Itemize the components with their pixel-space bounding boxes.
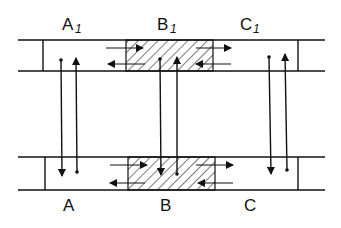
label-b: B <box>160 196 171 215</box>
svg-text:1: 1 <box>253 22 260 36</box>
label-c: C <box>244 196 256 215</box>
bottom-hatched-region-b <box>128 157 215 190</box>
bottom-band <box>18 157 325 190</box>
arrow-down-icon <box>61 60 62 176</box>
arrow-down-icon <box>160 59 161 175</box>
label-a: A <box>63 196 75 215</box>
arrow-up-icon <box>76 58 77 172</box>
svg-text:1: 1 <box>75 22 82 36</box>
top-hatched-region-b1 <box>126 40 213 71</box>
bottom-labels: A B C <box>63 196 256 215</box>
label-c1: C <box>240 15 252 34</box>
label-a1: A <box>62 15 74 34</box>
label-b1: B <box>157 15 168 34</box>
diagram: A 1 B 1 C 1 A B C <box>0 0 341 228</box>
top-labels: A 1 B 1 C 1 <box>62 15 260 36</box>
top-band <box>18 40 325 71</box>
svg-text:1: 1 <box>170 22 177 36</box>
